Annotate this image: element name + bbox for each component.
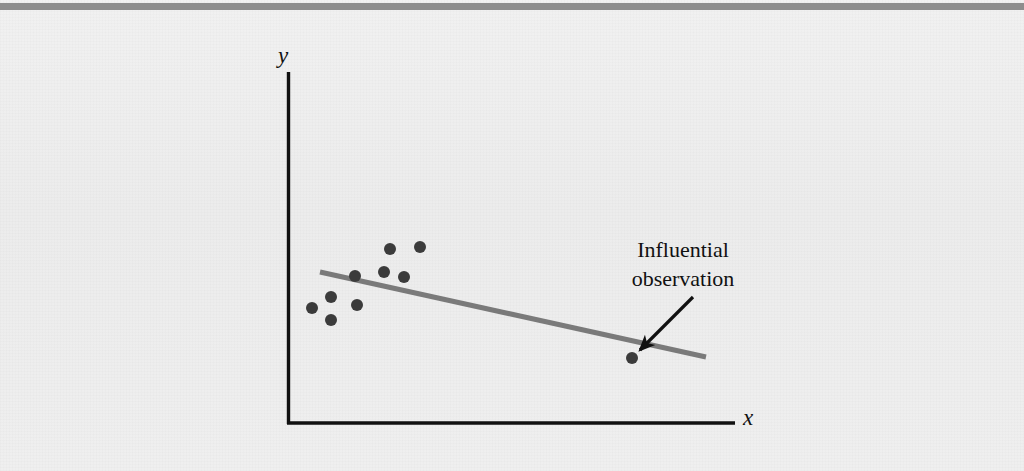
influential-observation-label: Influential observation: [583, 236, 783, 293]
data-point: [414, 241, 426, 253]
annotation-line-1: Influential: [583, 236, 783, 265]
x-axis-label: x: [743, 406, 753, 429]
callout-arrow-icon: [640, 297, 693, 350]
scatter-plot-canvas: [0, 0, 1024, 471]
annotation-line-2: observation: [583, 265, 783, 294]
data-point: [384, 243, 396, 255]
data-point: [351, 299, 363, 311]
data-point: [378, 266, 390, 278]
y-axis-label: y: [278, 44, 288, 67]
data-point: [626, 352, 638, 364]
data-point: [398, 271, 410, 283]
data-point: [306, 302, 318, 314]
figure-container: y x Influential observation: [0, 0, 1024, 471]
influential-observation-point: [626, 352, 638, 364]
data-point: [325, 291, 337, 303]
data-point: [325, 314, 337, 326]
data-point: [349, 270, 361, 282]
